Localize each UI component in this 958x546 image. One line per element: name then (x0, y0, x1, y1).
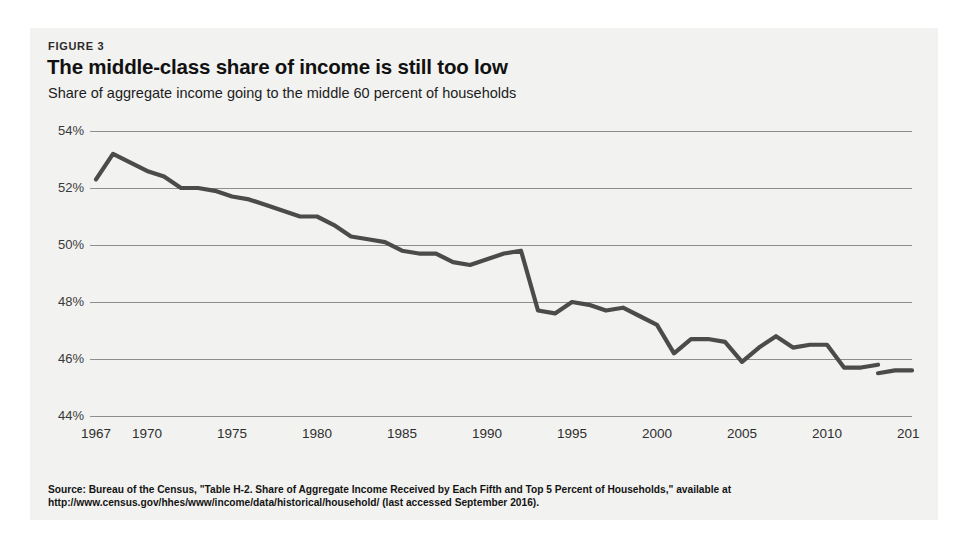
x-axis-tick-label: 2000 (642, 426, 672, 441)
y-axis-tick-label: 50% (58, 237, 84, 252)
x-axis-tick-label: 1985 (387, 426, 417, 441)
figure-label: FIGURE 3 (48, 40, 104, 52)
x-axis-tick-label: 1995 (557, 426, 587, 441)
source-note: Source: Bureau of the Census, "Table H-2… (48, 483, 920, 509)
y-axis-tick-label: 48% (58, 294, 84, 309)
figure-subtitle: Share of aggregate income going to the m… (48, 85, 516, 101)
series-line-0 (96, 154, 878, 368)
y-axis-tick-label: 46% (58, 351, 84, 366)
x-axis-tick-label: 1980 (302, 426, 332, 441)
page-title: The middle-class share of income is stil… (47, 55, 508, 79)
y-axis-tick-label: 52% (58, 180, 84, 195)
x-axis-tick-label: 1990 (472, 426, 502, 441)
source-line-1: Source: Bureau of the Census, "Table H-2… (48, 483, 920, 496)
source-line-2: http://www.census.gov/hhes/www/income/da… (48, 496, 920, 509)
line-chart: 44%46%48%50%52%54% 196719701975198019851… (48, 123, 920, 458)
data-series-lines (96, 154, 912, 373)
y-axis-tick-labels: 44%46%48%50%52%54% (58, 123, 84, 423)
x-axis-tick-label: 2005 (727, 426, 757, 441)
x-axis-tick-labels: 1967197019751980198519901995200020052010… (81, 426, 920, 441)
figure-panel: FIGURE 3 The middle-class share of incom… (30, 28, 938, 520)
y-axis-tick-label: 44% (58, 408, 84, 423)
x-axis-tick-label: 1967 (81, 426, 111, 441)
x-axis-tick-label: 2015 (897, 426, 920, 441)
x-axis-tick-label: 2010 (812, 426, 842, 441)
grid-lines (90, 131, 912, 416)
chart-plot-area: 44%46%48%50%52%54% 196719701975198019851… (48, 123, 920, 458)
x-axis-tick-label: 1975 (217, 426, 247, 441)
x-axis-tick-label: 1970 (132, 426, 162, 441)
series-line-1 (878, 370, 912, 373)
y-axis-tick-label: 54% (58, 123, 84, 138)
